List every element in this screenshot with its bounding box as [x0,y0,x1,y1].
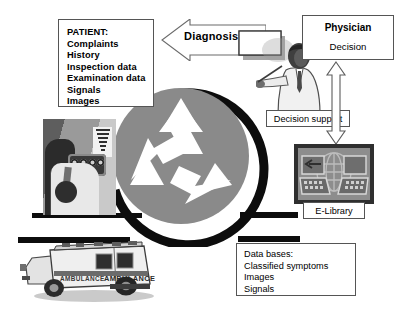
connector-bar-right-mid [240,212,298,218]
diagram-canvas: PATIENT: Complaints History Inspection d… [0,0,402,313]
databases-line-0: Data bases: [244,249,355,261]
e-library-icon [294,144,374,204]
physician-box: Physician Decision [302,15,394,60]
patient-line-0: PATIENT: [67,27,153,39]
physician-subtitle: Decision [303,41,393,52]
patient-box: PATIENT: Complaints History Inspection d… [58,19,154,107]
physician-title: Physician [303,22,393,33]
eye-chart-icon [93,127,112,157]
e-library-label-box: E-Library [303,202,365,219]
diagnosis-label: Diagnosis [184,30,238,42]
databases-line-1: Classified symptoms [244,261,355,273]
doctor-head [55,181,77,203]
databases-box: Data bases: Classified symptoms Images S… [236,243,356,296]
patient-line-6: Images [67,96,153,108]
e-library-label: E-Library [315,206,352,216]
connector-bar-right-low [238,236,300,242]
patient-line-3: Inspection data [67,62,153,74]
patient-line-1: Complaints [67,39,153,51]
patient-line-5: Signals [67,85,153,97]
ambulance-photo: AMBULANCE AMBULANCE [18,234,164,302]
databases-line-3: Signals [244,284,355,296]
examining-doctor-figure [51,163,99,215]
eye-examination-photo [43,119,116,215]
databases-line-2: Images [244,272,355,284]
patient-line-2: History [67,50,153,62]
vertical-double-arrow [325,61,347,145]
patient-line-4: Examination data [67,73,153,85]
svg-text:AMBULANCE: AMBULANCE [60,275,105,282]
